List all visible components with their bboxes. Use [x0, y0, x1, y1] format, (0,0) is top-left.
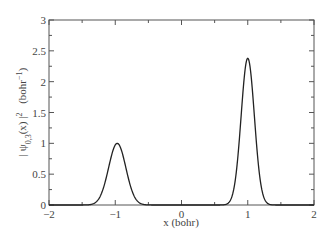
x-axis-label: x (bohr) [163, 216, 199, 229]
axis-ticks [49, 20, 314, 205]
y-tick-label: 1.5 [32, 107, 46, 119]
y-tick-label: 0 [41, 199, 47, 211]
plot-frame [49, 20, 314, 205]
y-tick-labels: 00.511.522.53 [32, 14, 46, 211]
chart: −2−1012 00.511.522.53 x (bohr) | ψ0,3(x)… [0, 0, 330, 242]
y-tick-label: 1 [41, 137, 47, 149]
density-curve [49, 58, 314, 205]
y-tick-label: 3 [41, 14, 47, 26]
x-tick-label: 1 [245, 208, 251, 220]
y-axis-label: | ψ0,3(x) |2 (bohr−1) [15, 67, 33, 156]
x-tick-label: −1 [109, 208, 121, 220]
x-tick-label: 2 [311, 208, 317, 220]
y-tick-label: 2 [41, 76, 47, 88]
y-tick-label: 0.5 [32, 168, 46, 180]
y-tick-label: 2.5 [32, 45, 46, 57]
